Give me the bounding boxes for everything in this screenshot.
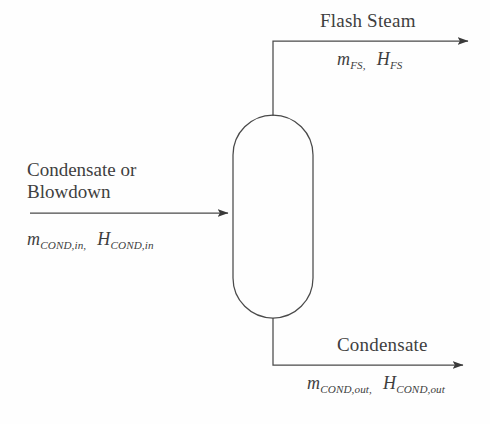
flash-steam-enthalpy-symbol: H — [377, 49, 390, 69]
condensate-outlet-symbols: mCOND,out,HCOND,out — [307, 373, 445, 394]
condensate-outlet-mass-subscript: COND,out, — [320, 383, 372, 395]
flash-steam-symbols: mFS,HFS — [337, 49, 402, 70]
inlet-label-line1: Condensate or — [27, 159, 136, 181]
flash-tank-diagram: Flash Steam mFS,HFS Condensate or Blowdo… — [0, 0, 490, 424]
inlet-label: Condensate or Blowdown — [27, 159, 136, 204]
condensate-outlet-enthalpy-symbol: H — [383, 373, 396, 393]
inlet-enthalpy-subscript: COND,in — [110, 239, 153, 251]
flash-steam-label: Flash Steam — [320, 10, 416, 32]
condensate-outlet-enthalpy-subscript: COND,out — [396, 383, 445, 395]
flash-steam-mass-subscript: FS, — [350, 59, 365, 71]
inlet-symbols: mCOND,in,HCOND,in — [27, 229, 154, 250]
inlet-mass-subscript: COND,in, — [40, 239, 86, 251]
flash-tank-vessel-outline — [233, 115, 313, 318]
inlet-label-line2: Blowdown — [27, 181, 136, 203]
condensate-outlet-label: Condensate — [337, 334, 428, 356]
flash-steam-mass-symbol: m — [337, 49, 350, 69]
inlet-mass-symbol: m — [27, 229, 40, 249]
inlet-enthalpy-symbol: H — [97, 229, 110, 249]
process-flow-lines — [0, 0, 490, 424]
flash-steam-enthalpy-subscript: FS — [390, 59, 403, 71]
condensate-outlet-mass-symbol: m — [307, 373, 320, 393]
